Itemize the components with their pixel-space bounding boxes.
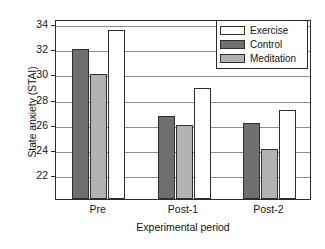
legend-item-exercise: Exercise [220, 24, 303, 37]
y-tick-label: 28 [21, 94, 48, 106]
x-tick-label-post-1: Post-1 [143, 203, 223, 215]
x-tick-label-post-2: Post-2 [228, 203, 308, 215]
bar-control-pre [72, 49, 89, 199]
legend-swatch-exercise [220, 26, 245, 35]
bar-exercise-post-1 [194, 88, 211, 199]
x-axis-title: Experimental period [55, 221, 311, 233]
legend-item-meditation: Meditation [220, 52, 303, 65]
legend-swatch-control [220, 40, 245, 49]
chart-figure: State anxiety (STAI) 22242628303234 PreP… [0, 0, 325, 249]
legend-label-exercise: Exercise [250, 25, 288, 36]
bar-exercise-pre [108, 30, 125, 199]
y-tick-label: 22 [21, 169, 48, 181]
y-tick-label: 26 [21, 119, 48, 131]
legend-label-meditation: Meditation [250, 53, 296, 64]
bar-meditation-pre [90, 74, 107, 199]
legend-swatch-meditation [220, 54, 245, 63]
bar-control-post-1 [158, 116, 175, 199]
x-tick-label-pre: Pre [58, 203, 138, 215]
y-tick-label: 30 [21, 68, 48, 80]
y-tick-label: 34 [21, 18, 48, 30]
legend-label-control: Control [250, 39, 282, 50]
bar-exercise-post-2 [279, 110, 296, 199]
y-tick-label: 24 [21, 144, 48, 156]
bar-control-post-2 [243, 123, 260, 199]
y-tick-label: 32 [21, 43, 48, 55]
chart-legend: ExerciseControlMeditation [216, 20, 308, 69]
bar-meditation-post-2 [261, 149, 278, 199]
bar-meditation-post-1 [176, 125, 193, 199]
legend-item-control: Control [220, 38, 303, 51]
